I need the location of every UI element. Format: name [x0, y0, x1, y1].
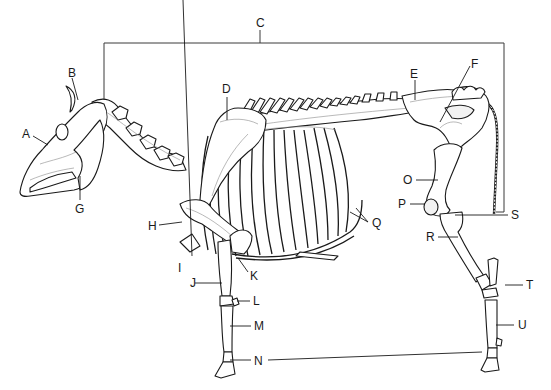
labels: A B C D E F G H I J K L M N O P Q R S T … [22, 16, 534, 368]
label-l: L [253, 294, 260, 308]
label-f: F [471, 57, 478, 71]
label-a: A [22, 127, 30, 141]
label-h: H [148, 219, 157, 233]
scapula [200, 108, 266, 212]
label-g: G [75, 202, 84, 216]
label-u: U [518, 318, 527, 332]
label-m: M [254, 319, 264, 333]
label-i: I [178, 261, 181, 275]
hindleg [424, 144, 502, 372]
label-q: Q [372, 216, 381, 230]
label-c: C [256, 16, 265, 30]
label-n: N [254, 354, 263, 368]
label-t: T [526, 278, 534, 292]
label-o: O [403, 173, 412, 187]
label-d: D [222, 82, 231, 96]
label-b: B [68, 66, 76, 80]
tail-vertebrae [488, 104, 497, 214]
cow-skeleton-diagram: A B C D E F G H I J K L M N O P Q R S T … [0, 0, 551, 390]
label-j: J [190, 276, 196, 290]
label-s: S [511, 208, 519, 222]
label-e: E [410, 67, 418, 81]
label-p: P [398, 197, 406, 211]
label-k: K [250, 269, 258, 283]
skull [20, 86, 107, 196]
label-r: R [426, 230, 435, 244]
